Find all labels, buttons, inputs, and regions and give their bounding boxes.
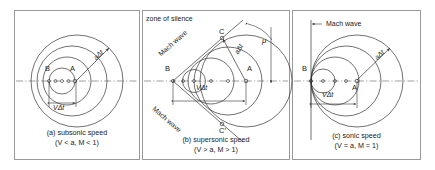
panel-b-point-a: A <box>247 64 252 73</box>
panel-b-point-c-prime: C′ <box>219 126 226 135</box>
panel-c-point-b: B <box>302 64 307 73</box>
panel-b-point-b: B <box>165 64 170 73</box>
panel-b-mach-angle-label: μ <box>262 36 266 45</box>
panel-a-caption-line1: (a) subsonic speed <box>14 128 140 137</box>
panel-a-point-a: A <box>70 64 75 73</box>
figure-sound-wave-propagation: A B aΔt VΔt (a) subsonic speed (V < a, M… <box>0 0 435 170</box>
panel-b-distance-label: VΔt <box>196 84 207 91</box>
panel-a-point-b: B <box>45 64 50 73</box>
panel-b-point-c: C <box>219 27 224 36</box>
panel-a-distance-label: VΔt <box>53 104 64 111</box>
panel-c-point-a: A <box>352 83 357 92</box>
panel-c-caption-line2: (V = a, M = 1) <box>292 141 421 150</box>
panel-b-caption-line2: (V > a, M > 1) <box>142 145 290 154</box>
panel-c-distance-label: VΔt <box>322 91 333 98</box>
panel-a-caption-line2: (V < a, M < 1) <box>14 138 140 147</box>
panel-b-caption-line1: (b) supersonic speed <box>142 135 290 144</box>
panel-c-mach-wave-label: Mach wave <box>326 20 361 27</box>
panel-b-zone-of-silence-label: zone of silence <box>146 15 193 22</box>
panel-c-caption-line1: (c) sonic speed <box>292 131 421 140</box>
